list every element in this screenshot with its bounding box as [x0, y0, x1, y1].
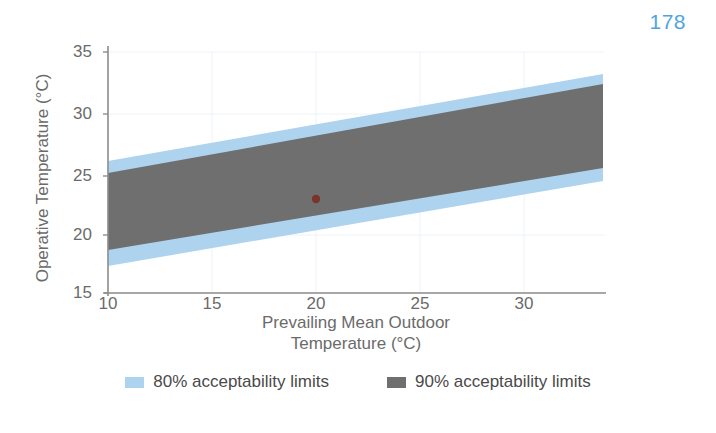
legend-item-90: 90% acceptability limits	[387, 372, 591, 392]
band-90-acceptability	[108, 84, 603, 250]
legend-label-80: 80% acceptability limits	[153, 372, 329, 392]
x-axis-title-line1: Prevailing Mean Outdoor	[108, 312, 604, 333]
legend-item-80: 80% acceptability limits	[125, 372, 329, 392]
y-tick-label-35: 35	[52, 42, 92, 62]
x-tick-label-20: 20	[293, 294, 339, 314]
legend-swatch-90-icon	[387, 377, 406, 388]
chart-legend: 80% acceptability limits 90% acceptabili…	[0, 362, 716, 402]
x-tick-label-10: 10	[85, 294, 131, 314]
legend-label-90: 90% acceptability limits	[415, 372, 591, 392]
adaptive-comfort-figure: 178	[0, 0, 716, 433]
y-tick-label-30: 30	[52, 104, 92, 124]
y-tick-label-20: 20	[52, 225, 92, 245]
data-point-marker	[312, 195, 320, 203]
x-tick-label-15: 15	[189, 294, 235, 314]
y-axis-title: Operative Temperature (°C)	[33, 43, 53, 313]
y-tick-label-25: 25	[52, 166, 92, 186]
chart-plot-area: 35 30 25 20 15 10 15 20 25 30 Operative …	[0, 0, 716, 360]
x-axis-title: Prevailing Mean Outdoor Temperature (°C)	[108, 312, 604, 354]
legend-swatch-80-icon	[125, 377, 144, 388]
x-tick-label-25: 25	[397, 294, 443, 314]
x-axis-title-line2: Temperature (°C)	[108, 333, 604, 354]
x-tick-label-30: 30	[501, 294, 547, 314]
